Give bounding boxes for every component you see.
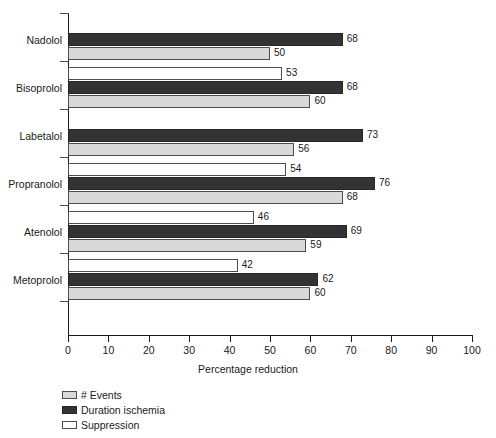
x-axis-tick-label: 60	[305, 344, 317, 356]
bar-value-label: 68	[343, 190, 358, 203]
x-axis-tick-label: 70	[345, 344, 357, 356]
bar-value-label: 59	[306, 238, 321, 251]
bar-value-label: 73	[363, 128, 378, 141]
bar-group-bisoprolol: 536860	[68, 67, 472, 109]
bar-row: 68	[68, 191, 472, 204]
bar-duration-propranolol[interactable]	[68, 177, 375, 190]
x-axis-tick-label: 30	[183, 344, 195, 356]
bar-row: 60	[68, 95, 472, 108]
x-axis-tick-label: 10	[103, 344, 115, 356]
bar-events-labetalol[interactable]	[68, 143, 294, 156]
plot-area: 68505368607356547668466959426260	[68, 13, 472, 335]
y-axis-label-nadolol: Nadolol	[0, 34, 62, 46]
bar-value-label: 50	[270, 46, 285, 59]
bar-group-propranolol: 547668	[68, 163, 472, 205]
bar-value-label: 76	[375, 176, 390, 189]
bar-duration-metoprolol[interactable]	[68, 273, 318, 286]
x-axis-tick	[108, 336, 109, 342]
bar-row: 68	[68, 33, 472, 46]
y-axis-label-metoprolol: Metoprolol	[0, 274, 62, 286]
y-axis-label-bisoprolol: Bisoprolol	[0, 82, 62, 94]
bar-value-label: 60	[310, 286, 325, 299]
x-axis-tick-label: 40	[224, 344, 236, 356]
bar-value-label: 69	[347, 224, 362, 237]
bar-row: 50	[68, 47, 472, 60]
bar-value-label: 68	[343, 32, 358, 45]
x-axis-tick	[391, 336, 392, 342]
bar-events-propranolol[interactable]	[68, 191, 343, 204]
x-axis-tick	[68, 336, 69, 342]
x-axis-tick	[270, 336, 271, 342]
legend-item[interactable]: # Events	[62, 388, 165, 401]
bar-row: 76	[68, 177, 472, 190]
bar-suppression-atenolol[interactable]	[68, 211, 254, 224]
legend-swatch-events	[62, 391, 77, 399]
x-axis-tick	[149, 336, 150, 342]
bar-value-label: 56	[294, 142, 309, 155]
legend-swatch-duration	[62, 406, 77, 414]
x-axis-tick-label: 50	[264, 344, 276, 356]
y-axis-label-atenolol: Atenolol	[0, 226, 62, 238]
legend-item[interactable]: Duration ischemia	[62, 403, 165, 416]
y-axis-label-propranolol: Propranolol	[0, 178, 62, 190]
bar-group-nadolol: 6850	[68, 19, 472, 61]
bar-events-metoprolol[interactable]	[68, 287, 310, 300]
bar-events-nadolol[interactable]	[68, 47, 270, 60]
bar-group-metoprolol: 426260	[68, 259, 472, 301]
x-axis-tick	[351, 336, 352, 342]
bar-row: 54	[68, 163, 472, 176]
bar-value-label: 42	[238, 258, 253, 271]
legend-label: Duration ischemia	[81, 404, 165, 416]
x-axis-tick-label: 90	[426, 344, 438, 356]
bar-value-label: 60	[310, 94, 325, 107]
x-axis-tick	[310, 336, 311, 342]
bar-suppression-metoprolol[interactable]	[68, 259, 238, 272]
bar-value-label: 68	[343, 80, 358, 93]
bar-row: 69	[68, 225, 472, 238]
legend-swatch-suppression	[62, 421, 77, 429]
bar-row: 68	[68, 81, 472, 94]
bar-suppression-propranolol[interactable]	[68, 163, 286, 176]
bar-row: 62	[68, 273, 472, 286]
bar-row: 73	[68, 129, 472, 142]
bar-row: 56	[68, 143, 472, 156]
legend-label: # Events	[81, 389, 122, 401]
legend-item[interactable]: Suppression	[62, 418, 165, 431]
bar-duration-bisoprolol[interactable]	[68, 81, 343, 94]
bar-group-labetalol: 7356	[68, 115, 472, 157]
bar-value-label: 62	[318, 272, 333, 285]
bar-row: 60	[68, 287, 472, 300]
x-axis-tick	[432, 336, 433, 342]
x-axis-title: Percentage reduction	[0, 363, 496, 375]
bar-suppression-bisoprolol[interactable]	[68, 67, 282, 80]
bar-value-label: 53	[282, 66, 297, 79]
x-axis-tick	[189, 336, 190, 342]
bar-row: 46	[68, 211, 472, 224]
y-axis-label-labetalol: Labetalol	[0, 130, 62, 142]
x-axis-tick-label: 20	[143, 344, 155, 356]
bar-events-bisoprolol[interactable]	[68, 95, 310, 108]
bar-row	[68, 19, 472, 32]
x-axis-tick	[472, 336, 473, 342]
bar-duration-atenolol[interactable]	[68, 225, 347, 238]
x-axis-tick-label: 80	[385, 344, 397, 356]
x-axis-tick-label: 0	[65, 344, 71, 356]
bar-duration-labetalol[interactable]	[68, 129, 363, 142]
bar-row: 53	[68, 67, 472, 80]
bar-duration-nadolol[interactable]	[68, 33, 343, 46]
legend-label: Suppression	[81, 419, 139, 431]
bar-value-label: 54	[286, 162, 301, 175]
bar-chart-figure: NadololBisoprololLabetalolPropranololAte…	[0, 0, 496, 438]
chart-legend: # EventsDuration ischemiaSuppression	[62, 388, 165, 433]
bar-row: 42	[68, 259, 472, 272]
bar-row: 59	[68, 239, 472, 252]
bar-value-label: 46	[254, 210, 269, 223]
x-axis-tick-label: 100	[463, 344, 481, 356]
bar-events-atenolol[interactable]	[68, 239, 306, 252]
x-axis-tick	[230, 336, 231, 342]
bar-row	[68, 115, 472, 128]
bar-group-atenolol: 466959	[68, 211, 472, 253]
